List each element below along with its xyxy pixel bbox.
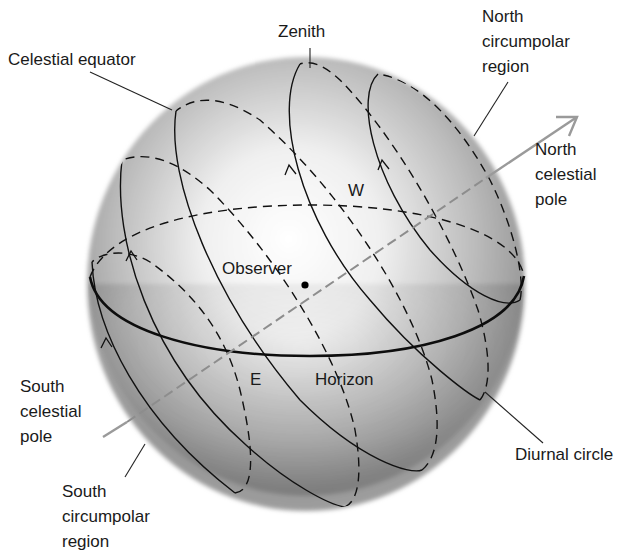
south-celestial-pole-line-2: celestial (20, 402, 81, 421)
north-circumpolar-label: North circumpolar region (482, 7, 575, 76)
north-circumpolar-leader (474, 82, 508, 136)
north-circumpolar-line-2: circumpolar (482, 32, 570, 51)
diurnal-circle-leader (485, 392, 543, 443)
celestial-equator-label: Celestial equator (8, 50, 136, 69)
south-circumpolar-line-3: region (62, 532, 109, 551)
diurnal-circle-label: Diurnal circle (515, 445, 613, 464)
south-celestial-pole-line-1: South (20, 377, 64, 396)
north-celestial-pole-line-2: celestial (535, 165, 596, 184)
south-circumpolar-label: South circumpolar region (62, 482, 155, 551)
west-label: W (348, 181, 364, 200)
observer-dot (301, 281, 308, 288)
north-celestial-pole-label: North celestial pole (535, 140, 601, 209)
south-celestial-pole-line-3: pole (20, 427, 52, 446)
north-circumpolar-line-3: region (482, 57, 529, 76)
north-circumpolar-line-1: North (482, 7, 524, 26)
horizon-label: Horizon (315, 370, 374, 389)
north-celestial-pole-line-3: pole (535, 190, 567, 209)
zenith-label: Zenith (278, 22, 325, 41)
observer-label: Observer (222, 259, 292, 278)
east-label: E (250, 370, 261, 389)
celestial-sphere-diagram: Zenith Celestial equator North circumpol… (0, 0, 619, 559)
celestial-equator-leader (90, 72, 172, 110)
south-celestial-pole-label: South celestial pole (20, 377, 86, 446)
south-circumpolar-line-2: circumpolar (62, 507, 150, 526)
south-circumpolar-leader (125, 444, 145, 477)
south-circumpolar-line-1: South (62, 482, 106, 501)
north-celestial-pole-line-1: North (535, 140, 577, 159)
